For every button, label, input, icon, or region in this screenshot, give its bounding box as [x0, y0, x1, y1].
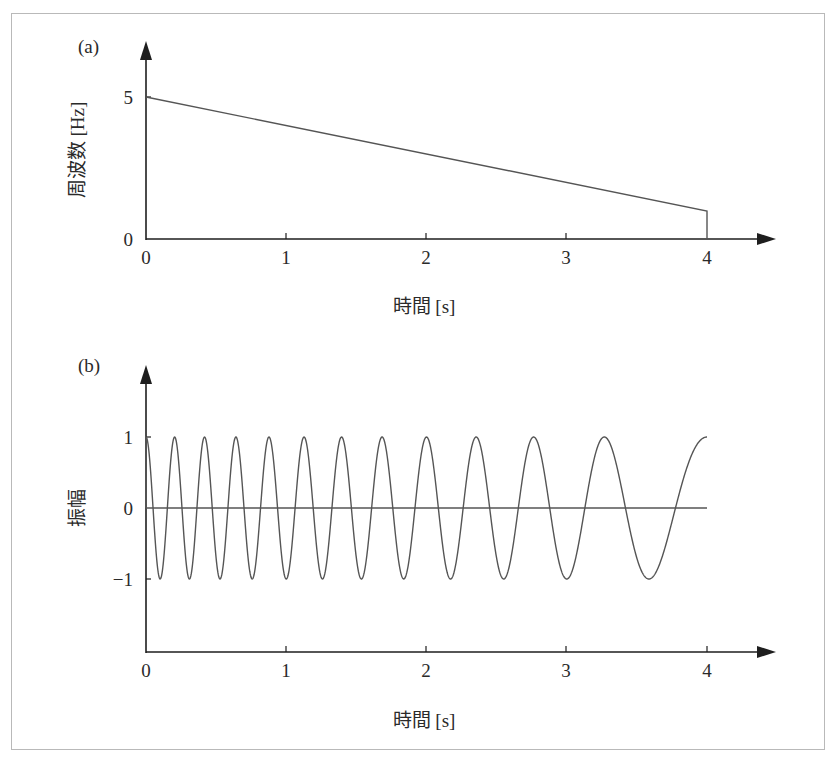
ytick-b-0: 0 [124, 498, 134, 519]
figure: (a) 0 1 2 3 4 0 5 時間 [s] 周波数 [Hz] [0, 0, 830, 766]
y-axis-arrow-a [140, 41, 152, 60]
xlabel-b: 時間 [s] [393, 710, 456, 731]
xtick-b-4: 4 [702, 660, 712, 681]
xtick-b-1: 1 [281, 660, 291, 681]
xtick-b-3: 3 [561, 660, 571, 681]
xlabel-a: 時間 [s] [393, 296, 456, 317]
y-axis-arrow-b [140, 365, 152, 384]
xtick-a-0: 0 [141, 247, 151, 268]
panel-a: (a) 0 1 2 3 4 0 5 時間 [s] 周波数 [Hz] [67, 36, 776, 317]
x-axis-arrow-b [757, 646, 776, 658]
ytick-b-neg1: −1 [113, 569, 133, 590]
xtick-a-1: 1 [281, 247, 291, 268]
ylabel-b: 振幅 [67, 489, 88, 527]
ytick-a-0: 0 [124, 229, 134, 250]
ytick-b-1: 1 [124, 427, 134, 448]
panel-b: (b) 0 1 2 3 4 1 0 −1 [67, 355, 776, 731]
panel-label-a: (a) [78, 36, 99, 58]
frequency-line [146, 97, 707, 239]
xtick-a-3: 3 [561, 247, 571, 268]
xtick-a-4: 4 [702, 247, 712, 268]
xtick-a-2: 2 [421, 247, 431, 268]
xtick-b-0: 0 [141, 660, 151, 681]
xtick-b-2: 2 [421, 660, 431, 681]
x-axis-arrow-a [757, 233, 776, 245]
ytick-a-5: 5 [124, 87, 134, 108]
ylabel-a: 周波数 [Hz] [67, 102, 88, 199]
panel-label-b: (b) [78, 355, 100, 377]
